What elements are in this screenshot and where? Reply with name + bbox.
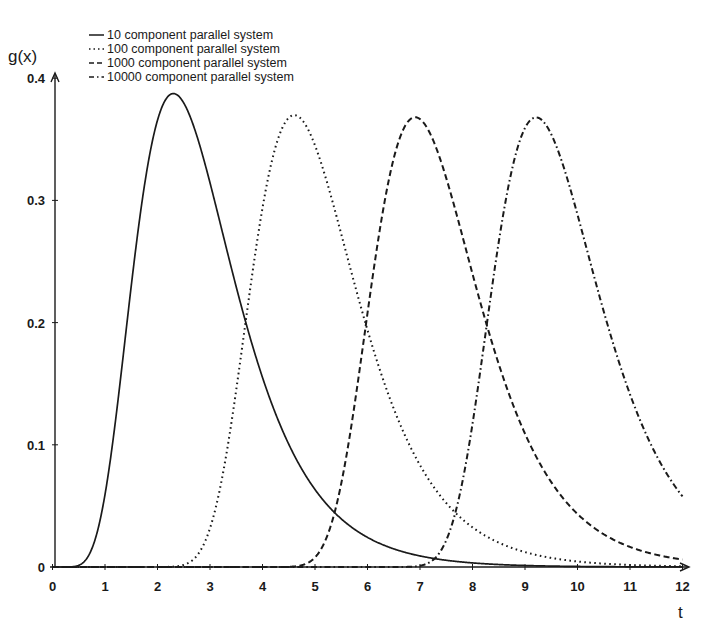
x-tick-label: 4 (259, 579, 267, 594)
x-tick-label: 6 (364, 579, 371, 594)
x-tick-label: 1 (101, 579, 108, 594)
legend-item-dotted: 100 component parallel system (89, 42, 280, 56)
legend: 10 component parallel system 100 compone… (89, 28, 294, 84)
x-tick-label: 9 (521, 579, 528, 594)
x-tick-label: 5 (311, 579, 318, 594)
series-dotted-curve (53, 115, 683, 567)
x-axis-title: t (678, 603, 683, 622)
curves (53, 94, 683, 567)
x-tick-label: 12 (675, 579, 689, 594)
x-tick-label: 11 (623, 579, 637, 594)
x-tick-label: 0 (49, 579, 56, 594)
x-tick-label: 7 (416, 579, 423, 594)
y-tick-label: 0.2 (27, 316, 45, 331)
y-tick-label: 0.4 (27, 71, 46, 86)
legend-label: 100 component parallel system (107, 42, 280, 56)
x-tick-label: 10 (570, 579, 584, 594)
y-axis-title: g(x) (8, 47, 37, 66)
legend-item-solid: 10 component parallel system (89, 28, 273, 42)
legend-label: 10 component parallel system (107, 28, 273, 42)
legend-label: 1000 component parallel system (107, 56, 287, 70)
y-tick-label: 0 (38, 560, 45, 575)
legend-item-dashed: 1000 component parallel system (89, 56, 287, 70)
series-dashed-curve (53, 117, 683, 567)
legend-label: 10000 component parallel system (107, 70, 294, 84)
x-tick-label: 3 (206, 579, 213, 594)
x-tick-label: 2 (154, 579, 161, 594)
axes (50, 73, 689, 571)
y-tick-label: 0.3 (27, 193, 45, 208)
pdf-line-chart: g(x) t 012345678910111200.10.20.30.4 10 … (0, 0, 715, 644)
series-solid-curve (53, 94, 683, 567)
x-tick-label: 8 (469, 579, 476, 594)
y-tick-label: 0.1 (27, 438, 45, 453)
series-dash-dot-curve (53, 117, 683, 567)
legend-item-dash-dot: 10000 component parallel system (89, 70, 294, 84)
